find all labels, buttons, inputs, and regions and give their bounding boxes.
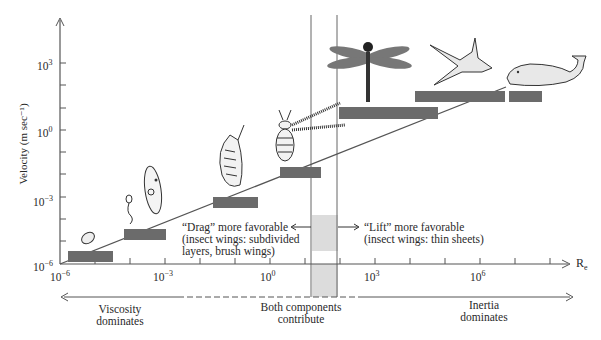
x-tick-label: 106 (470, 268, 486, 283)
flagellate-icon (126, 195, 132, 224)
transition-band-upper (312, 215, 338, 251)
drag-annotation: “Drag” more favorable (insect wings: sub… (182, 221, 300, 257)
bar-thrips (280, 167, 321, 178)
inertia-regime-label: Inertia dominates (444, 299, 524, 323)
transition-band-lower (312, 264, 338, 297)
x-tick-label: 10−3 (153, 268, 173, 283)
bar-dragonfly (339, 107, 438, 119)
y-axis-label: Velocity (m sec⁻¹) (17, 89, 29, 199)
bar-whale (509, 91, 542, 102)
paramecium-icon (142, 165, 165, 215)
figure: Velocity (m sec⁻¹) 103 100 10−3 10−6 10−… (0, 0, 601, 340)
bar-larva (213, 197, 258, 208)
y-tick-label: 10−3 (33, 193, 53, 208)
y-tick-label: 100 (37, 124, 53, 139)
dragonfly-icon (327, 42, 413, 102)
x-axis-label: Re (576, 257, 588, 274)
y-axis (56, 18, 66, 264)
x-tick-label: 10−6 (50, 268, 70, 283)
viscosity-regime-label: Viscosity dominates (80, 303, 160, 327)
chart-canvas (0, 0, 601, 340)
lift-annotation: “Lift” more favorable (insect wings: thi… (364, 221, 484, 245)
whale-icon (507, 56, 586, 86)
swallow-icon (430, 38, 492, 85)
bar-bacterium (68, 251, 113, 262)
bar-swallow (415, 91, 505, 102)
both-regime-label: Both components contribute (246, 301, 356, 325)
bacterium-icon (79, 230, 96, 246)
y-tick-label: 103 (37, 57, 53, 72)
larva-icon (220, 125, 244, 186)
x-tick-label: 100 (260, 268, 276, 283)
x-tick-label: 103 (364, 268, 380, 283)
bar-paramecium (124, 229, 166, 240)
